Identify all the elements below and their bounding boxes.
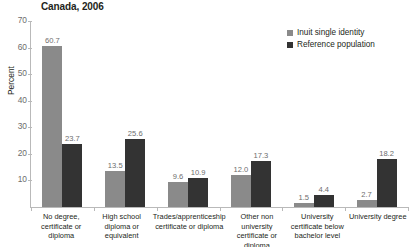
bar-value-label: 23.7 bbox=[65, 134, 80, 143]
bar[interactable]: 1.5 bbox=[294, 203, 314, 207]
y-tick-label: 30 bbox=[18, 121, 27, 131]
bar-value-label: 12.0 bbox=[234, 165, 249, 174]
x-tick-mark bbox=[345, 207, 346, 211]
bar-group: 12.017.3 bbox=[219, 21, 282, 207]
y-tick-label: 40 bbox=[18, 95, 27, 105]
bar[interactable]: 18.2 bbox=[377, 159, 397, 207]
bar-slot: 25.6 bbox=[125, 21, 145, 207]
bar-groups: 60.723.713.525.69.610.912.017.31.54.42.7… bbox=[31, 21, 408, 207]
bar[interactable]: 10.9 bbox=[188, 178, 208, 207]
bar[interactable]: 12.0 bbox=[231, 175, 251, 207]
x-axis-category-label: University certificate below bachelor le… bbox=[287, 212, 347, 246]
bar-chart: Canada, 2006 Inuit single identity Refer… bbox=[0, 0, 412, 247]
bar-slot: 1.5 bbox=[294, 21, 314, 207]
y-tick-label: 50 bbox=[18, 68, 27, 78]
bar-group: 2.718.2 bbox=[345, 21, 408, 207]
bar[interactable]: 13.5 bbox=[105, 171, 125, 207]
bar-value-label: 2.7 bbox=[361, 190, 372, 199]
bar-group: 1.54.4 bbox=[282, 21, 345, 207]
x-axis-category-label: No degree, certificate or diploma bbox=[31, 212, 91, 246]
bar[interactable]: 60.7 bbox=[42, 46, 62, 207]
bar-slot: 18.2 bbox=[377, 21, 397, 207]
x-axis-category-labels: No degree, certificate or diplomaHigh sc… bbox=[31, 212, 408, 246]
bar-slot: 60.7 bbox=[42, 21, 62, 207]
bar[interactable]: 23.7 bbox=[62, 144, 82, 207]
x-axis-category-label: High school diploma or equivalent bbox=[91, 212, 151, 246]
bar-value-label: 25.6 bbox=[128, 129, 143, 138]
bar[interactable]: 25.6 bbox=[125, 139, 145, 207]
bar-value-label: 60.7 bbox=[45, 36, 60, 45]
bar-slot: 4.4 bbox=[314, 21, 334, 207]
bar-group: 13.525.6 bbox=[94, 21, 157, 207]
bar-slot: 13.5 bbox=[105, 21, 125, 207]
bar-value-label: 18.2 bbox=[379, 149, 394, 158]
y-tick-label: 60 bbox=[18, 42, 27, 52]
y-tick-label: 10 bbox=[18, 174, 27, 184]
bar-slot: 23.7 bbox=[62, 21, 82, 207]
bar-value-label: 1.5 bbox=[298, 193, 309, 202]
bar[interactable]: 2.7 bbox=[357, 200, 377, 207]
plot-area: Percent 70605040302010 60.723.713.525.69… bbox=[30, 21, 408, 207]
bar-value-label: 13.5 bbox=[108, 161, 123, 170]
bar-slot: 17.3 bbox=[251, 21, 271, 207]
bar[interactable]: 4.4 bbox=[314, 195, 334, 207]
x-axis-category-label: Other non university certificate or dipl… bbox=[227, 212, 287, 246]
bar-slot: 9.6 bbox=[168, 21, 188, 207]
x-tick-mark bbox=[94, 207, 95, 211]
x-axis-category-label: University degree bbox=[348, 212, 408, 246]
bar-slot: 12.0 bbox=[231, 21, 251, 207]
bar-value-label: 4.4 bbox=[318, 185, 329, 194]
x-tick-mark bbox=[31, 207, 32, 211]
x-tick-mark bbox=[157, 207, 158, 211]
bar-value-label: 9.6 bbox=[173, 172, 184, 181]
y-axis-title: Percent bbox=[6, 66, 16, 95]
chart-title: Canada, 2006 bbox=[41, 1, 104, 12]
x-axis-category-label: Trades/apprenticeship certificate or dip… bbox=[152, 212, 227, 246]
x-tick-mark bbox=[408, 207, 409, 211]
bar-slot: 2.7 bbox=[357, 21, 377, 207]
bar-value-label: 10.9 bbox=[191, 168, 206, 177]
bar[interactable]: 9.6 bbox=[168, 182, 188, 208]
y-tick-label: 20 bbox=[18, 148, 27, 158]
bar-slot: 10.9 bbox=[188, 21, 208, 207]
bar-group: 60.723.7 bbox=[31, 21, 94, 207]
y-tick-label: 70 bbox=[18, 15, 27, 25]
x-tick-mark bbox=[282, 207, 283, 211]
bar-group: 9.610.9 bbox=[157, 21, 220, 207]
bar-value-label: 17.3 bbox=[254, 151, 269, 160]
bar[interactable]: 17.3 bbox=[251, 161, 271, 207]
x-tick-mark bbox=[220, 207, 221, 211]
